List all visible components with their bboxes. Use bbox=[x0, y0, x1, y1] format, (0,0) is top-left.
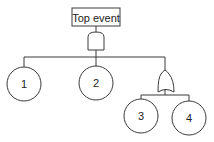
event-label: 1 bbox=[21, 78, 27, 90]
or-gate-icon bbox=[158, 70, 174, 92]
event-label: 3 bbox=[138, 110, 144, 122]
basic-event-2: 2 bbox=[79, 66, 113, 100]
basic-event-3: 3 bbox=[124, 99, 158, 133]
and-gate-icon bbox=[88, 32, 104, 50]
basic-event-1: 1 bbox=[7, 67, 41, 101]
top-event: Top event bbox=[72, 8, 120, 26]
basic-event-4: 4 bbox=[172, 101, 206, 135]
event-label: 2 bbox=[93, 77, 99, 89]
top-event-label: Top event bbox=[72, 12, 120, 24]
event-label: 4 bbox=[186, 112, 192, 124]
fault-tree-diagram: Top event 1 2 3 4 bbox=[0, 0, 214, 142]
